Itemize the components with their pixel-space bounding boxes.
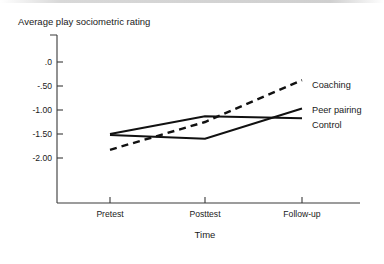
y-axis-title: Average play sociometric rating [18, 16, 150, 27]
x-tick-label-posttest: Posttest [189, 209, 221, 219]
chart-figure: Average play sociometric rating .0 -.50 … [0, 0, 384, 264]
y-tick-label-4: -2.00 [32, 153, 52, 163]
y-tick-label-0: .0 [45, 57, 52, 67]
y-tick-label-2: -1.00 [32, 105, 52, 115]
series-line-peer-pairing [110, 109, 302, 139]
x-tick-label-pretest: Pretest [96, 209, 124, 219]
series-label-peer-pairing: Peer pairing [312, 105, 362, 115]
y-tick-label-1: -.50 [37, 81, 52, 91]
x-axis-title: Time [195, 229, 216, 240]
y-tick-label-3: -1.50 [32, 129, 52, 139]
series-label-coaching: Coaching [312, 80, 351, 90]
line-chart: Average play sociometric rating .0 -.50 … [0, 0, 384, 264]
x-tick-label-followup: Follow-up [283, 209, 320, 219]
series-line-control [110, 116, 302, 134]
series-label-control: Control [312, 120, 342, 130]
